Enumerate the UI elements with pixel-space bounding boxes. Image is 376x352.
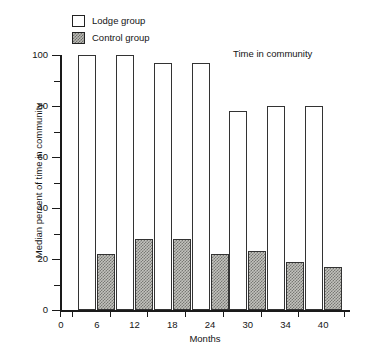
x-axis-tick [110, 310, 111, 317]
y-axis-tick-major: 20 [52, 259, 60, 260]
x-axis-tick [344, 310, 345, 317]
x-axis-tick-label: 6 [94, 319, 99, 330]
x-axis-tick [223, 310, 224, 317]
x-axis-tick-label: 24 [205, 319, 216, 330]
y-axis-tick-minor [54, 81, 60, 82]
x-axis-tick-label: 12 [129, 319, 140, 330]
y-axis-tick-minor [54, 183, 60, 184]
chart-legend: Lodge group Control group [72, 13, 222, 47]
y-axis-tick-label: 80 [37, 100, 48, 111]
y-axis-tick-major: 40 [52, 208, 60, 209]
y-axis-tick-label: 0 [43, 304, 48, 315]
bar-control-group [286, 262, 304, 310]
y-axis-tick-minor [54, 285, 60, 286]
y-axis-title: Median percent of time in community [33, 61, 44, 301]
x-axis-tick [60, 310, 61, 317]
bar-lodge-group [116, 55, 134, 310]
bar-control-group [324, 267, 342, 310]
hatched-square-swatch-icon [72, 32, 85, 44]
x-axis-tick [261, 310, 262, 317]
bar-control-group [135, 239, 153, 310]
legend-label-lodge-group: Lodge group [92, 15, 145, 27]
legend-item-lodge-group: Lodge group [72, 13, 222, 28]
y-axis-tick-minor [54, 132, 60, 133]
y-axis-tick-label: 40 [37, 202, 48, 213]
y-axis-tick-major: 100 [52, 55, 60, 56]
legend-label-control-group: Control group [92, 32, 150, 44]
x-axis-tick-label: 34 [280, 319, 291, 330]
x-axis-tick-label: 40 [318, 319, 329, 330]
x-axis-tick-label: 18 [167, 319, 178, 330]
x-axis-tick [72, 310, 73, 317]
open-square-swatch-icon [72, 15, 85, 27]
bar-lodge-group [192, 63, 210, 310]
plot-area: 020406080100 06121824303440 [60, 55, 350, 310]
x-axis-tick-label: 0 [58, 319, 63, 330]
bar-control-group [173, 239, 191, 310]
bar-lodge-group [305, 106, 323, 310]
bar-lodge-group [267, 106, 285, 310]
y-axis-tick-label: 60 [37, 151, 48, 162]
x-axis-title: Months [60, 333, 350, 344]
y-axis-tick-minor [54, 234, 60, 235]
x-axis-tick [185, 310, 186, 317]
bar-control-group [248, 251, 266, 310]
bar-control-group [97, 254, 115, 310]
bar-lodge-group [78, 55, 96, 310]
x-axis-tick [298, 310, 299, 317]
legend-item-control-group: Control group [72, 30, 222, 45]
x-axis-line [60, 310, 350, 312]
bar-lodge-group [229, 111, 247, 310]
bar-control-group [211, 254, 229, 310]
x-axis-tick [147, 310, 148, 317]
bar-lodge-group [154, 63, 172, 310]
y-axis-tick-label: 100 [32, 49, 48, 60]
x-axis-tick-label: 30 [242, 319, 253, 330]
y-axis-tick-label: 20 [37, 253, 48, 264]
y-axis-line [60, 55, 62, 310]
y-axis-tick-major: 60 [52, 157, 60, 158]
bar-chart: Lodge group Control group Time in commun… [0, 0, 376, 352]
y-axis-tick-major: 80 [52, 106, 60, 107]
y-axis-tick-major: 0 [52, 310, 60, 311]
